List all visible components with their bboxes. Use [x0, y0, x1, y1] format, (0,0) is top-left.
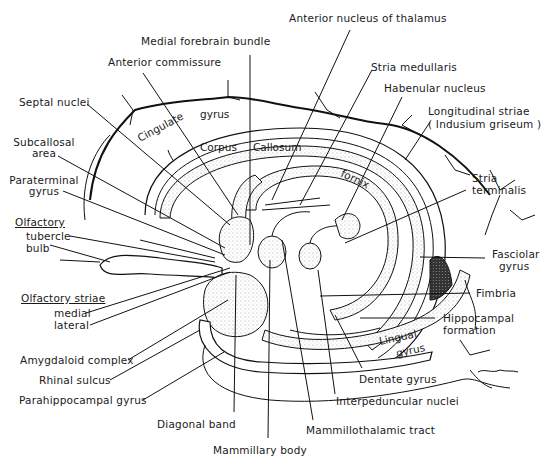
label-bulb: bulb	[26, 242, 50, 254]
label-longitudinal-striae: Longitudinal striae	[428, 105, 530, 117]
parahippocampal-outline	[203, 345, 510, 401]
corpus-label: Corpus	[200, 141, 237, 153]
label-rhinal-sulcus: Rhinal sulcus	[39, 374, 111, 386]
artist-signature	[478, 370, 518, 372]
label-olfactory: Olfactory	[15, 216, 65, 228]
label-anterior-commissure: Anterior commissure	[108, 56, 221, 68]
label-diagonal-band: Diagonal band	[157, 418, 236, 430]
label-stria: Stria	[472, 172, 497, 184]
callosum-label: Callosum	[253, 141, 301, 153]
cingulate-label: Cingulate	[135, 110, 185, 144]
label-septal-nuclei: Septal nuclei	[19, 96, 90, 108]
label-olfactory-striae: Olfactory striae	[21, 292, 105, 304]
label-paraterminal-gyrus: gyrus	[8, 185, 80, 197]
label-lateral: lateral	[54, 319, 89, 331]
label-tubercle: tubercle	[26, 230, 71, 242]
label-stria-terminalis: terminalis	[472, 184, 526, 196]
label-mammillary-body: Mammillary body	[213, 444, 307, 456]
label-mammillothalamic-tract: Mammillothalamic tract	[306, 424, 435, 436]
label-fasciolar: Fasciolar	[492, 248, 540, 260]
label-habenular-nucleus: Habenular nucleus	[384, 82, 486, 94]
label-indusium-griseum: ( Indusium griseum )	[428, 118, 541, 130]
label-hippocampal-formation: formation	[443, 324, 496, 336]
label-fasciolar-gyrus: gyrus	[499, 260, 529, 272]
label-hippocampal: Hippocampal	[443, 312, 514, 324]
label-medial: medial	[54, 307, 91, 319]
label-parahippocampal-gyrus: Parahippocampal gyrus	[19, 394, 147, 406]
label-dentate-gyrus: Dentate gyrus	[359, 373, 437, 385]
label-subcallosal-area: area	[12, 147, 76, 159]
label-anterior-nucleus-of-thalamus: Anterior nucleus of thalamus	[289, 12, 447, 24]
label-interpeduncular-nuclei: Interpeduncular nuclei	[336, 395, 459, 407]
label-stria-medullaris: Stria medullaris	[371, 61, 457, 73]
label-amygdaloid-complex: Amygdaloid complex	[20, 354, 134, 366]
cingulate-gyrus-label: gyrus	[200, 108, 229, 120]
label-medial-forebrain-bundle: Medial forebrain bundle	[141, 35, 270, 47]
label-fimbria: Fimbria	[476, 287, 516, 299]
